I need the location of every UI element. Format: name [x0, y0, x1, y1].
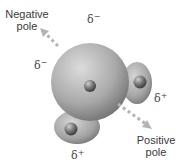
partial-charge-oxygen-top: δ−	[87, 11, 100, 26]
positive-pole-label: Positive pole	[133, 134, 179, 158]
partial-charge-hydrogen-right: δ+	[154, 90, 167, 105]
charge-sign: +	[78, 148, 85, 157]
charge-sign: +	[161, 91, 168, 100]
partial-charge-oxygen-left: δ−	[34, 57, 47, 72]
negative-pole-label: Negative pole	[4, 8, 50, 32]
negative-pole-label-line1: Negative	[4, 8, 50, 20]
charge-sign: −	[94, 12, 101, 21]
positive-pole-label-line2: pole	[133, 146, 179, 158]
partial-charge-hydrogen-bottom: δ+	[71, 147, 84, 162]
dipole-arrow-lower	[118, 104, 152, 129]
delta-symbol: δ	[87, 13, 94, 26]
delta-symbol: δ	[154, 92, 161, 105]
negative-pole-label-line2: pole	[4, 20, 50, 32]
charge-sign: −	[41, 58, 48, 67]
delta-symbol: δ	[71, 149, 78, 162]
delta-symbol: δ	[34, 59, 41, 72]
oxygen-sphere	[51, 43, 129, 121]
positive-pole-label-line1: Positive	[133, 134, 179, 146]
